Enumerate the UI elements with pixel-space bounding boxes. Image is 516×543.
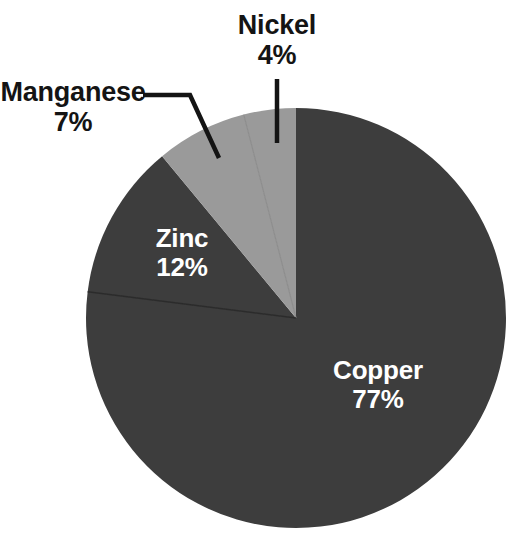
pie-label-zinc-value: 12% xyxy=(128,253,236,282)
pie-label-copper-value: 77% xyxy=(302,385,454,414)
pie-label-manganese: Manganese 7% xyxy=(0,77,146,137)
pie-label-zinc-name: Zinc xyxy=(128,224,236,253)
pie-label-zinc: Zinc 12% xyxy=(128,224,236,282)
pie-label-copper: Copper 77% xyxy=(302,356,454,414)
pie-label-nickel-value: 4% xyxy=(202,40,352,70)
pie-label-nickel-name: Nickel xyxy=(202,10,352,40)
pie-label-copper-name: Copper xyxy=(302,356,454,385)
pie-label-manganese-value: 7% xyxy=(0,107,146,137)
pie-label-nickel: Nickel 4% xyxy=(202,10,352,70)
pie-chart: Nickel 4% Manganese 7% Zinc 12% Copper 7… xyxy=(0,0,516,543)
pie-label-manganese-name: Manganese xyxy=(0,77,146,107)
